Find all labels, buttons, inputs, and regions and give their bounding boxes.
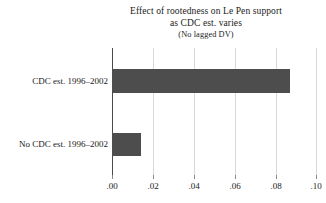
- tick-mark-00: [112, 175, 113, 179]
- x-tick-label-04: .04: [179, 181, 209, 191]
- gridline-06: [235, 48, 236, 175]
- tick-mark-06: [235, 175, 236, 179]
- x-tick-label-06: .06: [220, 181, 250, 191]
- tick-mark-04: [194, 175, 195, 179]
- tick-mark-10: [316, 175, 317, 179]
- x-tick-label-02: .02: [138, 181, 168, 191]
- x-tick-label-10: .10: [301, 181, 326, 191]
- tick-mark-08: [276, 175, 277, 179]
- plot-area: [112, 48, 317, 175]
- bar-cdc-est: [112, 69, 290, 93]
- gridline-10: [316, 48, 317, 175]
- gridline-02: [153, 48, 154, 175]
- bar-chart: Effect of rootedness on Le Pen support a…: [0, 0, 326, 203]
- x-tick-label-00: .00: [97, 181, 127, 191]
- gridline-04: [194, 48, 195, 175]
- chart-title: Effect of rootedness on Le Pen support: [98, 6, 314, 18]
- bar-no-cdc-est: [112, 133, 141, 156]
- chart-subtitle: as CDC est. varies: [98, 18, 314, 30]
- y-axis-label-1: No CDC est. 1996–2002: [0, 139, 108, 149]
- y-axis-label-0: CDC est. 1996–2002: [0, 76, 108, 86]
- chart-title-block: Effect of rootedness on Le Pen support a…: [98, 6, 314, 40]
- chart-note: (No lagged DV): [98, 29, 314, 40]
- x-tick-label-08: .08: [261, 181, 291, 191]
- tick-mark-02: [153, 175, 154, 179]
- gridline-08: [276, 48, 277, 175]
